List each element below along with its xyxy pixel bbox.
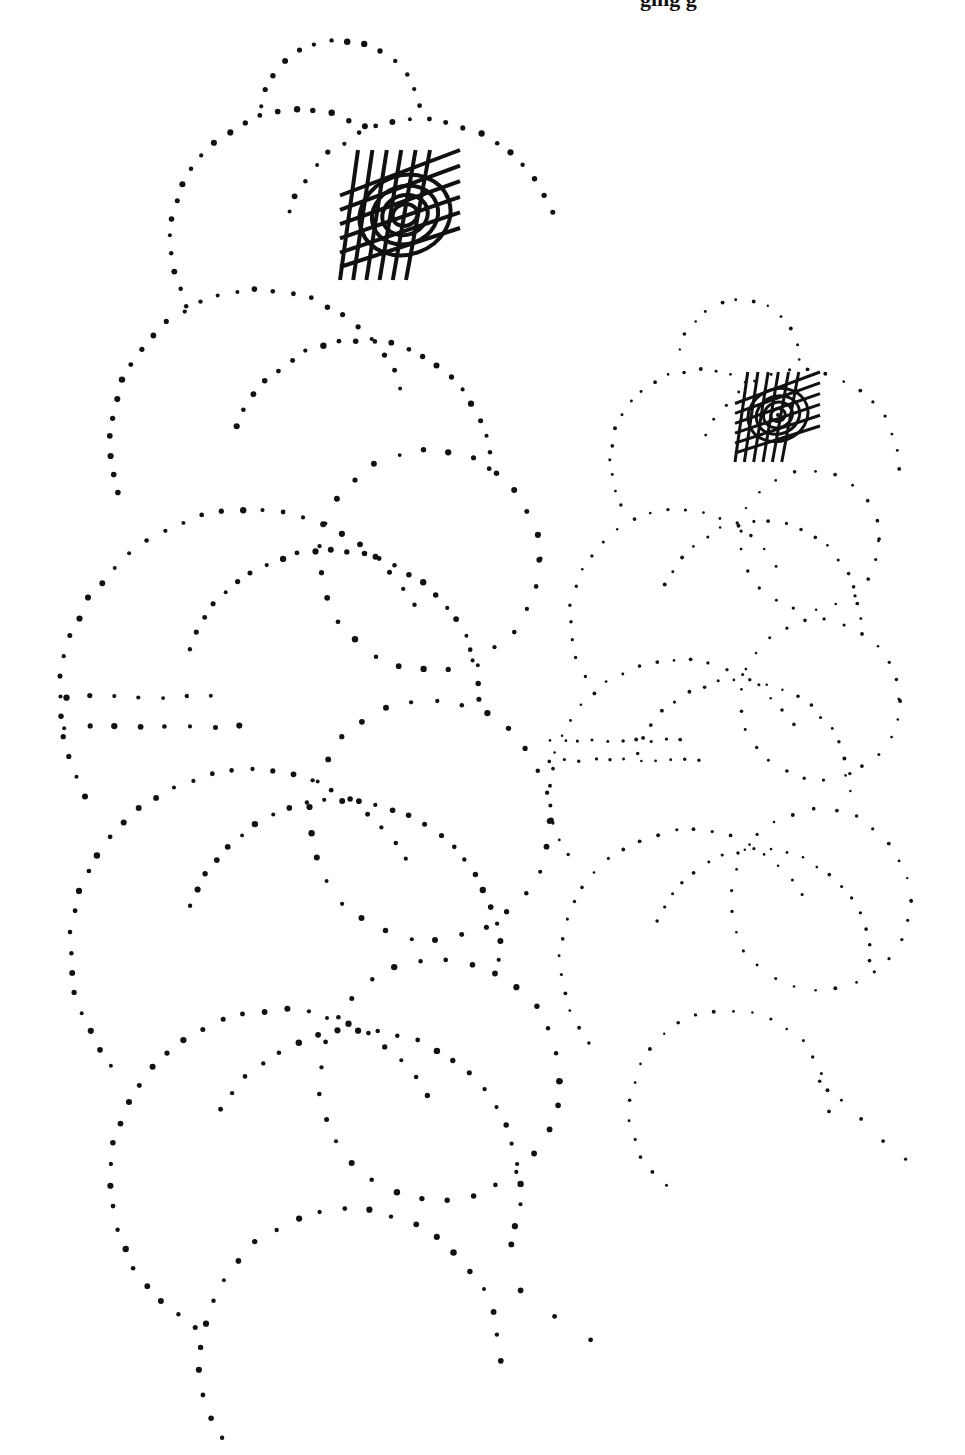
large-dotted-figure xyxy=(57,38,593,1440)
illustration-canvas xyxy=(0,0,965,1455)
small-dotted-figure xyxy=(548,298,913,1186)
spiral-eye-icon xyxy=(340,150,462,280)
spiral-eye-icon xyxy=(735,372,820,462)
